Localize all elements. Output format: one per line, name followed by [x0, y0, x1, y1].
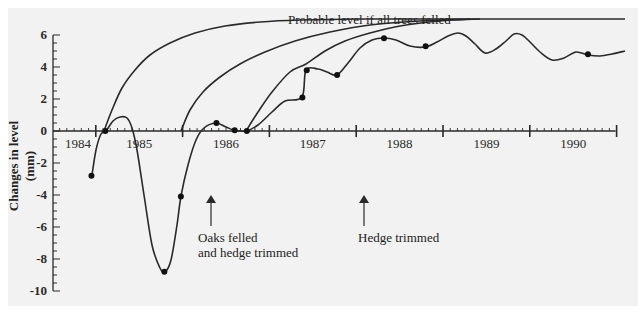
- y-tick-label: 6: [41, 27, 48, 42]
- data-point-marker: [213, 120, 219, 126]
- annotation-oaks-line1: Oaks felled: [198, 230, 298, 245]
- data-point-marker: [244, 128, 250, 134]
- data-point-marker: [88, 173, 94, 179]
- x-tick-label: 1988: [387, 136, 413, 151]
- annotation-oaks-felled: Oaks felled and hedge trimmed: [198, 230, 298, 260]
- series-recovery-hedge: [246, 19, 480, 131]
- x-tick-label: 1984: [65, 136, 92, 151]
- series-recovery-oaks: [181, 19, 470, 131]
- data-point-marker: [585, 51, 591, 57]
- arrow-oaks-felled-head: [206, 195, 216, 203]
- data-point-marker: [232, 127, 238, 133]
- series-probable-level: [104, 19, 625, 131]
- y-tick-label: -10: [30, 283, 47, 298]
- data-point-marker: [102, 128, 108, 134]
- y-tick-label: 4: [41, 59, 48, 74]
- x-tick-label: 1985: [126, 136, 152, 151]
- x-tick-label: 1986: [213, 136, 240, 151]
- y-tick-label: 0: [41, 123, 48, 138]
- y-axis-label: Changes in level (mm): [6, 106, 38, 226]
- data-point-marker: [161, 269, 167, 275]
- annotation-hedge-trimmed: Hedge trimmed: [358, 230, 439, 245]
- data-point-marker: [334, 72, 340, 78]
- data-point-marker: [304, 67, 310, 73]
- y-tick-label: 2: [41, 91, 48, 106]
- data-point-marker: [381, 35, 387, 41]
- arrow-hedge-trimmed-head: [359, 195, 369, 203]
- data-point-marker: [299, 94, 305, 100]
- chart-canvas: -10-8-6-4-202461984198519861987198819891…: [0, 0, 638, 311]
- x-tick-label: 1990: [560, 136, 586, 151]
- data-point-marker: [423, 43, 429, 49]
- x-tick-label: 1989: [473, 136, 499, 151]
- y-tick-label: -8: [36, 251, 47, 266]
- curve-label-probable-level: Probable level if all trees felled: [288, 12, 451, 28]
- x-tick-label: 1987: [300, 136, 327, 151]
- data-point-marker: [178, 194, 184, 200]
- annotation-oaks-line2: and hedge trimmed: [198, 245, 298, 260]
